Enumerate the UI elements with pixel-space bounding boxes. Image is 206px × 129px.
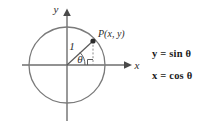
right-angle-marker (88, 60, 94, 66)
point-p-label: P(x, y) (97, 28, 125, 40)
unit-circle-diagram: y x P(x, y) 1 θ (0, 0, 206, 129)
point-p-dot (90, 38, 95, 43)
radius-length-label: 1 (69, 40, 75, 52)
trigonometry-figure: y x P(x, y) 1 θ y = sin θ x = cos θ (0, 0, 206, 129)
y-axis-arrowhead (63, 9, 71, 17)
angle-theta-label: θ (77, 53, 83, 65)
x-axis-label: x (134, 59, 140, 71)
y-axis-label: y (53, 3, 59, 15)
equation-cosine: x = cos θ (152, 70, 192, 81)
x-axis-arrowhead (124, 61, 132, 69)
equation-sine: y = sin θ (152, 48, 191, 59)
